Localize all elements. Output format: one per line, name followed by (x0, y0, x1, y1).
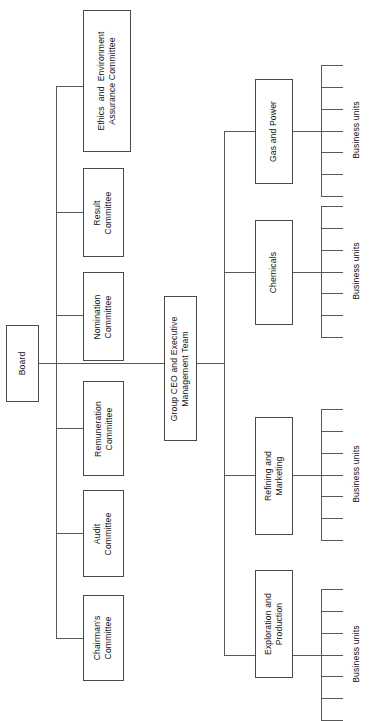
business-unit-tooth[interactable] (321, 109, 343, 110)
connector-ceo-to-division-trunk (197, 363, 224, 364)
connector-division-trunk (224, 131, 225, 655)
business-unit-tooth[interactable] (321, 228, 343, 229)
business-unit-tooth[interactable] (321, 453, 343, 454)
business-unit-tooth[interactable] (321, 475, 343, 476)
business-unit-tooth[interactable] (321, 131, 343, 132)
business-unit-tooth[interactable] (321, 196, 343, 197)
node-board[interactable]: Board (6, 325, 39, 402)
node-division-gas-and-power[interactable]: Gas and Power (255, 79, 293, 184)
node-committee-ethics-and-environment-assurance[interactable]: Ethics and Environment Assurance Committ… (83, 10, 131, 152)
business-unit-tooth[interactable] (321, 87, 343, 88)
connector-committee-trunk (56, 86, 57, 638)
node-division-chemicals-label: Chemicals (269, 252, 280, 293)
connector-committee-5 (56, 212, 83, 213)
connector-committee-4 (56, 315, 83, 316)
node-committee-chairmans[interactable]: Chairman's Committee (83, 595, 124, 681)
node-committee-audit[interactable]: Audit Committee (83, 490, 124, 577)
business-unit-tooth[interactable] (321, 611, 343, 612)
node-committee-result[interactable]: Result Committee (83, 168, 124, 257)
connector-board-main (39, 363, 165, 364)
business-unit-tooth[interactable] (321, 540, 343, 541)
business-unit-tooth[interactable] (321, 676, 343, 677)
node-division-gas-and-power-label: Gas and Power (269, 101, 280, 162)
connector-units-exploration-and-production (293, 655, 322, 656)
node-division-exploration-and-production-label: Exploration and Production (263, 593, 285, 655)
business-unit-tooth[interactable] (321, 293, 343, 294)
node-committee-remuneration[interactable]: Remuneration Committee (83, 381, 124, 476)
node-division-exploration-and-production[interactable]: Exploration and Production (255, 570, 293, 678)
node-committee-audit-label: Audit Committee (93, 512, 115, 555)
business-unit-tooth[interactable] (321, 174, 343, 175)
connector-units-gas-and-power (293, 131, 322, 132)
node-committee-ethics-and-environment-assurance-label: Ethics and Environment Assurance Committ… (96, 31, 118, 130)
node-committee-nomination[interactable]: Nomination Committee (83, 272, 124, 361)
business-unit-tooth[interactable] (321, 337, 343, 338)
business-unit-tooth[interactable] (321, 655, 343, 656)
connector-committee-6 (56, 86, 83, 87)
connector-division-chemicals (224, 272, 255, 273)
node-committee-nomination-label: Nomination Committee (93, 294, 115, 339)
connector-committee-1 (56, 638, 83, 639)
node-board-label: Board (17, 352, 28, 376)
business-unit-tooth[interactable] (321, 315, 343, 316)
business-unit-tooth[interactable] (321, 250, 343, 251)
node-group-ceo-and-executive-management-team-label: Group CEO and Executive Management Team (170, 316, 192, 421)
business-unit-tooth[interactable] (321, 409, 343, 410)
business-unit-tooth[interactable] (321, 589, 343, 590)
node-division-refining-and-marketing[interactable]: Refining and Marketing (255, 417, 293, 535)
business-units-comb-chemicals (321, 206, 343, 338)
connector-units-chemicals (293, 272, 322, 273)
business-unit-tooth[interactable] (321, 272, 343, 273)
business-unit-tooth[interactable] (321, 633, 343, 634)
connector-units-refining-and-marketing (293, 475, 322, 476)
business-units-label-exploration-and-production: Business units (351, 625, 361, 683)
business-unit-tooth[interactable] (321, 152, 343, 153)
connector-division-gas-and-power (224, 131, 255, 132)
connector-committee-3 (56, 428, 83, 429)
business-units-comb-gas-and-power (321, 65, 343, 197)
node-committee-remuneration-label: Remuneration Committee (93, 401, 115, 457)
connector-division-exploration-and-production (224, 655, 255, 656)
business-unit-tooth[interactable] (321, 496, 343, 497)
business-unit-tooth[interactable] (321, 698, 343, 699)
business-units-comb-refining-and-marketing (321, 409, 343, 541)
node-committee-chairmans-label: Chairman's Committee (93, 616, 115, 661)
node-committee-result-label: Result Committee (93, 191, 115, 234)
business-units-label-gas-and-power: Business units (351, 101, 361, 159)
business-unit-tooth[interactable] (321, 65, 343, 66)
node-division-chemicals[interactable]: Chemicals (255, 220, 293, 325)
business-unit-tooth[interactable] (321, 518, 343, 519)
business-units-comb-exploration-and-production (321, 589, 343, 721)
connector-division-refining-and-marketing (224, 475, 255, 476)
connector-committee-2 (56, 533, 83, 534)
node-group-ceo-and-executive-management-team[interactable]: Group CEO and Executive Management Team (164, 296, 197, 441)
business-units-label-refining-and-marketing: Business units (351, 445, 361, 503)
node-division-refining-and-marketing-label: Refining and Marketing (263, 451, 285, 501)
business-unit-tooth[interactable] (321, 431, 343, 432)
business-units-label-chemicals: Business units (351, 242, 361, 300)
business-unit-tooth[interactable] (321, 206, 343, 207)
